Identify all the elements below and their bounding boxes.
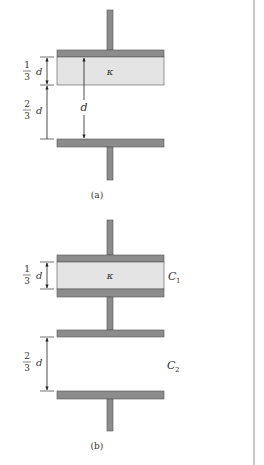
label-c1: C 1 xyxy=(168,270,180,285)
bottom-plate xyxy=(57,139,164,147)
label-one-third-d: 1 3 d xyxy=(23,264,42,286)
bottom-lead-wire xyxy=(107,399,113,431)
svg-text:3: 3 xyxy=(24,111,30,121)
svg-text:2: 2 xyxy=(175,366,179,374)
caption-a: (a) xyxy=(91,190,103,200)
c2-top-plate xyxy=(57,330,164,337)
svg-text:1: 1 xyxy=(176,277,180,285)
c1-top-plate xyxy=(57,255,164,262)
kappa-label: κ xyxy=(106,66,114,77)
svg-text:d: d xyxy=(36,105,42,116)
svg-text:3: 3 xyxy=(24,276,30,286)
c2-bottom-plate xyxy=(57,391,164,399)
series-connecting-wire xyxy=(107,297,113,330)
svg-text:d: d xyxy=(36,270,42,281)
svg-text:1: 1 xyxy=(24,60,30,70)
svg-text:2: 2 xyxy=(24,351,30,361)
svg-text:d: d xyxy=(36,66,42,77)
label-two-thirds-d: 2 3 d xyxy=(23,351,42,373)
label-one-third-d: 1 3 d xyxy=(23,60,42,82)
svg-text:d: d xyxy=(36,357,42,368)
top-lead-wire xyxy=(107,10,113,50)
svg-text:3: 3 xyxy=(24,363,30,373)
bottom-lead-wire xyxy=(107,147,113,180)
kappa-label: κ xyxy=(106,270,114,281)
capacitor-diagram: κ 1 3 d 2 3 d d (a) xyxy=(0,0,264,465)
caption-b: (b) xyxy=(91,441,104,451)
svg-text:1: 1 xyxy=(24,264,30,274)
svg-text:2: 2 xyxy=(24,99,30,109)
label-c2: C 2 xyxy=(167,359,179,374)
top-lead-wire xyxy=(107,220,113,255)
c1-bottom-plate xyxy=(57,289,164,297)
svg-text:3: 3 xyxy=(24,72,30,82)
top-plate xyxy=(57,50,164,57)
label-total-d: d xyxy=(80,101,87,114)
label-two-thirds-d: 2 3 d xyxy=(23,99,42,121)
figure-b: κ 1 3 d 2 3 d C 1 xyxy=(23,220,180,451)
figure-a: κ 1 3 d 2 3 d d (a) xyxy=(23,10,164,200)
